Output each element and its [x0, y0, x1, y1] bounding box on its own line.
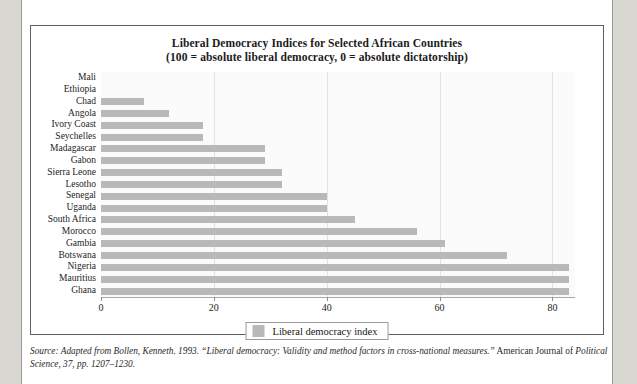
- bar-row: Ethiopia: [101, 84, 575, 96]
- bar: [101, 288, 569, 295]
- y-axis-label: Mali: [78, 71, 96, 83]
- bar-row: Ivory Coast: [101, 119, 575, 131]
- bar-row: Botswana: [101, 250, 575, 262]
- source-note: Source: Adapted from Bollen, Kenneth. 19…: [30, 345, 608, 371]
- y-axis-label: Ethiopia: [64, 83, 96, 95]
- y-axis-label: Botswana: [59, 249, 96, 261]
- bar: [101, 193, 327, 200]
- chart-title-line-2: (100 = absolute liberal democracy, 0 = a…: [31, 50, 603, 64]
- legend-swatch-icon: [253, 325, 265, 337]
- source-citation-italic: Source: Adapted from Bollen, Kenneth. 19…: [30, 346, 495, 356]
- y-axis-label: Lesotho: [65, 178, 96, 190]
- y-axis-label: Morocco: [62, 225, 96, 237]
- bar-row: Lesotho: [101, 179, 575, 191]
- bar: [101, 134, 203, 141]
- bar-row: South Africa: [101, 214, 575, 226]
- x-axis-tick-label: 60: [435, 302, 445, 313]
- y-axis-label: Ghana: [71, 284, 96, 296]
- bar: [101, 110, 169, 117]
- bar-row: Gambia: [101, 238, 575, 250]
- y-axis-label: Gabon: [71, 154, 96, 166]
- bar: [101, 169, 282, 176]
- x-axis-line: [101, 297, 575, 298]
- bar: [101, 216, 355, 223]
- y-axis-label: Seychelles: [55, 130, 96, 142]
- legend-label: Liberal democracy index: [273, 326, 378, 337]
- bar: [101, 181, 282, 188]
- bar-row: Madagascar: [101, 143, 575, 155]
- chart-title: Liberal Democracy Indices for Selected A…: [31, 36, 603, 64]
- bar-row: Chad: [101, 96, 575, 108]
- y-axis-label: Chad: [76, 95, 96, 107]
- y-axis-label: Sierra Leone: [47, 166, 96, 178]
- chart-legend: Liberal democracy index: [246, 322, 389, 340]
- bar-row: Mali: [101, 72, 575, 84]
- y-axis-label: Angola: [68, 107, 96, 119]
- y-axis-label: Senegal: [66, 189, 96, 201]
- bar-row: Senegal: [101, 190, 575, 202]
- bar-row: Seychelles: [101, 131, 575, 143]
- bar: [101, 98, 144, 105]
- y-axis-label: Madagascar: [50, 142, 96, 154]
- x-axis-tick: [327, 297, 328, 301]
- x-axis-tick-label: 80: [547, 302, 557, 313]
- bar: [101, 122, 203, 129]
- x-axis-tick-label: 40: [322, 302, 332, 313]
- bar: [101, 276, 569, 283]
- chart-title-line-1: Liberal Democracy Indices for Selected A…: [31, 36, 603, 50]
- y-axis-label: Nigeria: [68, 260, 97, 272]
- bar-row: Mauritius: [101, 273, 575, 285]
- bar: [101, 228, 417, 235]
- bar: [101, 264, 569, 271]
- y-axis-label: Mauritius: [59, 272, 96, 284]
- y-axis-label: South Africa: [48, 213, 96, 225]
- x-axis: 020406080: [101, 297, 575, 319]
- bar: [101, 240, 445, 247]
- x-axis-tick-label: 20: [209, 302, 219, 313]
- x-axis-tick: [214, 297, 215, 301]
- bar-row: Uganda: [101, 202, 575, 214]
- source-journal-name: American Journal of: [495, 346, 573, 356]
- bar: [101, 145, 265, 152]
- bar-row: Angola: [101, 108, 575, 120]
- bar-row: Sierra Leone: [101, 167, 575, 179]
- bar-row: Gabon: [101, 155, 575, 167]
- x-axis-tick: [552, 297, 553, 301]
- bar-row: Nigeria: [101, 261, 575, 273]
- x-axis-tick: [101, 297, 102, 301]
- y-axis-label: Uganda: [66, 201, 96, 213]
- x-axis-tick: [440, 297, 441, 301]
- bar: [101, 205, 327, 212]
- y-axis-label: Ivory Coast: [51, 118, 96, 130]
- page-sheet: Liberal Democracy Indices for Selected A…: [22, 0, 612, 384]
- bar-row: Morocco: [101, 226, 575, 238]
- x-axis-tick-label: 0: [99, 302, 104, 313]
- figure-frame: Liberal Democracy Indices for Selected A…: [30, 25, 604, 335]
- y-axis-label: Gambia: [66, 237, 96, 249]
- bar: [101, 252, 507, 259]
- bar-row: Ghana: [101, 285, 575, 297]
- plot-area: MaliEthiopiaChadAngolaIvory CoastSeychel…: [101, 72, 575, 297]
- bar: [101, 157, 265, 164]
